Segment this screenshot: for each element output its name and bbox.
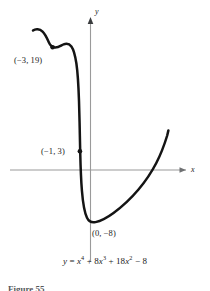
point-label-minus3-19: (−3, 19) <box>14 56 42 65</box>
marker-point-a <box>50 45 55 50</box>
point-label-0-minus8: (0, −8) <box>92 229 116 238</box>
equation-lhs: y <box>63 256 67 266</box>
point-label-minus1-3: (−1, 3) <box>41 147 65 156</box>
quartic-curve <box>33 29 168 222</box>
y-axis-label: y <box>95 8 99 16</box>
equation-equals: = <box>69 256 74 266</box>
figure-caption: Figure 55 <box>8 284 45 291</box>
y-axis <box>88 17 94 262</box>
equation-term1-exponent: 4 <box>81 254 84 261</box>
x-axis <box>10 167 186 173</box>
equation-term3-coefficient: 18 <box>116 256 125 266</box>
equation-label: y = x4 + 8x3 + 18x2 − 8 <box>0 257 210 266</box>
graph-plot <box>0 0 210 291</box>
figure-container: y x (−3, 19) (−1, 3) (0, −8) y = x4 + 8x… <box>0 0 210 291</box>
x-axis-label: x <box>191 166 195 174</box>
equation-operator-2: + <box>108 256 113 266</box>
equation-term2-exponent: 3 <box>103 254 106 261</box>
equation-term3-exponent: 2 <box>129 254 132 261</box>
equation-operator-3: − <box>135 256 140 266</box>
equation-term4-constant: 8 <box>142 256 147 266</box>
equation-operator-1: + <box>87 256 92 266</box>
marker-point-b <box>78 149 83 154</box>
